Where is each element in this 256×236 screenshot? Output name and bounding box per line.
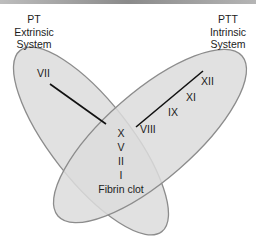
fibrin-clot-label: Fibrin clot: [98, 183, 144, 195]
factor-v: V: [117, 141, 124, 153]
factor-ix: IX: [168, 106, 178, 118]
factor-viii: VIII: [140, 123, 156, 135]
extrinsic-system-title: PT Extrinsic System: [10, 13, 58, 51]
factor-x: X: [117, 127, 124, 139]
intrinsic-system-title: PTT Intrinsic System: [204, 13, 252, 51]
factor-vii: VII: [37, 67, 50, 79]
factor-xi: XI: [186, 91, 196, 103]
factor-ii: II: [118, 155, 124, 167]
factor-xii: XII: [201, 75, 214, 87]
factor-i: I: [120, 169, 123, 181]
